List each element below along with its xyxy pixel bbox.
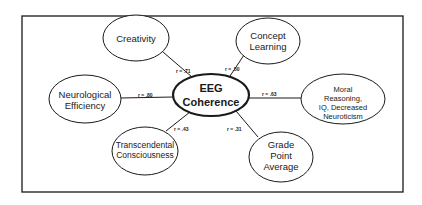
concept-learning-label-1: Concept: [250, 30, 286, 41]
center-label-line2: Coherence: [183, 96, 240, 108]
neurological-efficiency-correlation: r = .80: [138, 92, 153, 98]
moral-reasoning-label-3: IQ, Decreased: [319, 103, 367, 112]
eeg-coherence-diagram: EEG Coherence Creativity r = .71 Concept…: [0, 0, 422, 205]
transcendental-consciousness-correlation: r = .43: [174, 126, 189, 132]
neurological-efficiency-label-1: Neurological: [59, 89, 112, 100]
creativity-correlation: r = .71: [176, 68, 191, 74]
creativity-label: Creativity: [116, 33, 156, 44]
grade-point-average-correlation: r = .31: [227, 126, 242, 132]
grade-point-average-label-1: Grade: [268, 139, 294, 150]
moral-reasoning-label-1: Moral: [334, 85, 353, 94]
center-label-line1: EEG: [199, 82, 222, 94]
node-eeg-coherence: [173, 74, 249, 116]
transcendental-consciousness-label-2: Consciousness: [116, 150, 174, 160]
concept-learning-label-2: Learning: [250, 41, 287, 52]
grade-point-average-label-3: Average: [263, 161, 298, 172]
grade-point-average-label-2: Point: [270, 150, 292, 161]
moral-reasoning-label-2: Reasoning,: [324, 94, 362, 103]
concept-learning-correlation: r = .50: [225, 66, 240, 72]
transcendental-consciousness-label-1: Transcendental: [116, 140, 174, 150]
moral-reasoning-correlation: r = .63: [262, 91, 277, 97]
neurological-efficiency-label-2: Efficiency: [65, 100, 106, 111]
moral-reasoning-label-4: Neuroticism: [323, 112, 363, 121]
